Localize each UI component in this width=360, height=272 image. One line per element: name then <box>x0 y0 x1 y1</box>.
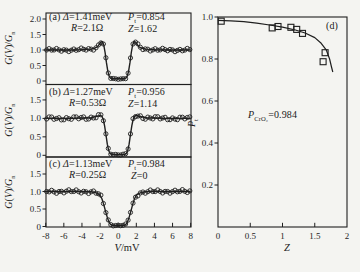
panel-a-ytick-label: 1.5 <box>30 30 42 40</box>
panel-d-xtick-label: 1 <box>280 231 285 241</box>
panel-d-ytick-label: 0.2 <box>202 180 213 190</box>
panel-c-r-value: R=0.25Ω <box>69 169 106 180</box>
left-xtick-label: -6 <box>60 231 68 241</box>
panel-d-xtick-label: 0.5 <box>245 231 257 241</box>
panel-b-ytick-label: 0 <box>37 150 42 160</box>
panel-c-fit-line <box>46 192 191 226</box>
panel-d-ytick-label: 0.8 <box>202 54 214 64</box>
panel-d-label: (d) <box>326 20 338 31</box>
panel-b-data-points <box>45 113 192 158</box>
panel-d-ytick-label: 0.6 <box>202 96 214 106</box>
panel-c-ytick-label: 1.0 <box>30 187 42 197</box>
left-xtick-label: 8 <box>188 231 193 241</box>
left-x-axis-label: V/mV <box>97 242 157 253</box>
panel-d-x-axis-label: Z <box>272 242 302 253</box>
panel-c-y-axis-label: G(V)/Gn <box>3 152 15 232</box>
panel-c-ytick-label: 0.5 <box>30 204 42 214</box>
panel-a-z-value: Z=1.62 <box>128 23 157 34</box>
panel-d-ytick-label: 0.4 <box>202 138 214 148</box>
panel-a-ytick-label: 2.0 <box>30 14 42 24</box>
data-square <box>320 59 326 65</box>
panel-d-xtick-label: 2 <box>345 231 350 241</box>
panel-d-ytick-label: 1.0 <box>202 12 214 22</box>
panel-a-ytick-label: 1.0 <box>30 45 42 55</box>
panel-d-y-axis-label: Pt <box>186 83 198 163</box>
panel-c-ytick-label: 1.5 <box>30 169 42 179</box>
panel-a-ytick-label: 0 <box>37 76 42 86</box>
panel-a-ytick-label: 0.5 <box>30 61 42 71</box>
left-xtick-label: -2 <box>96 231 104 241</box>
panel-a-title: (a) Δ=1.41meV <box>49 11 112 22</box>
panel-a-y-axis-label: G(V)/Gn <box>3 8 15 88</box>
left-xtick-label: 6 <box>170 231 175 241</box>
panel-b-z-value: Z=1.14 <box>128 98 157 109</box>
panel-c-ytick-label: 0 <box>37 222 42 232</box>
left-xtick-label: -8 <box>42 231 50 241</box>
panel-b-ytick-label: 0.5 <box>30 132 42 142</box>
panel-b-ytick-label: 1.0 <box>30 113 42 123</box>
panel-b-y-axis-label: G(V)/Gn <box>3 80 15 160</box>
left-xtick-label: 0 <box>116 231 121 241</box>
panel-c-z-value: Z=0 <box>131 170 148 181</box>
panel-b-title: (b) Δ=1.27meV <box>49 86 113 97</box>
panel-c-data-points <box>45 188 192 228</box>
figure-canvas: 00.51.01.52.000.51.01.500.51.01.5-8-6-4-… <box>0 0 360 272</box>
panel-a-data-points <box>45 40 192 81</box>
left-xtick-label: -4 <box>78 231 86 241</box>
data-square <box>218 18 224 24</box>
panel-a-r-value: R=2.1Ω <box>71 22 103 33</box>
panel-c-title: (c) Δ=1.13meV <box>49 158 112 169</box>
panel-d-annotation: PCrO₂=0.984 <box>248 109 297 124</box>
figure-panel-group: 00.51.01.52.000.51.01.500.51.01.5-8-6-4-… <box>0 0 360 272</box>
panel-b-ytick-label: 1.5 <box>30 95 42 105</box>
panel-d-xtick-label: 1.5 <box>309 231 321 241</box>
panel-b-r-value: R=0.53Ω <box>69 97 106 108</box>
left-xtick-label: 2 <box>134 231 139 241</box>
left-xtick-label: 4 <box>152 231 157 241</box>
panel-d-xtick-label: 0 <box>216 231 221 241</box>
